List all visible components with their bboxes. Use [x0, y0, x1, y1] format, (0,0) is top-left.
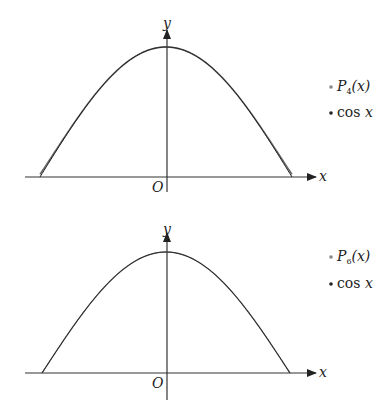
series-cos-curve: [40, 47, 292, 177]
legend-label-cos: cos x: [337, 275, 373, 291]
legend-marker-cos: [329, 111, 333, 115]
origin-label: O: [152, 375, 164, 391]
y-axis-label: y: [162, 221, 172, 237]
legend: P4(x) cos x: [329, 78, 373, 120]
legend-label-cos: cos x: [337, 104, 373, 120]
series-p4-curve: [40, 47, 292, 174]
legend-label-p4: P4(x): [336, 78, 370, 96]
x-axis-label: x: [319, 168, 327, 184]
series-p6-curve: [42, 252, 290, 373]
y-axis-label: y: [162, 15, 172, 31]
series-cos-curve: [42, 252, 290, 373]
chart-top: y x O P4(x) cos x: [25, 15, 373, 195]
chart-bottom: y x O P6(x) cos x: [25, 221, 373, 400]
figure: y x O P4(x) cos x y x O P6(x): [0, 0, 391, 420]
legend-marker-cos: [329, 282, 333, 286]
legend-marker-p4: [329, 85, 333, 89]
legend: P6(x) cos x: [329, 248, 373, 291]
origin-label: O: [152, 179, 164, 195]
legend-label-p6: P6(x): [336, 248, 370, 266]
x-axis-label: x: [319, 364, 327, 380]
legend-marker-p6: [329, 255, 333, 259]
